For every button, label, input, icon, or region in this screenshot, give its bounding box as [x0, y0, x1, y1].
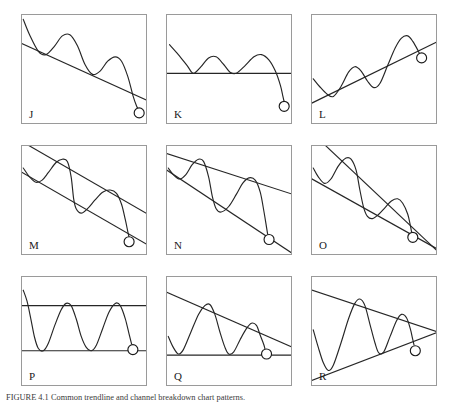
breakdown-marker-circle	[408, 232, 418, 242]
panel-label-p: P	[29, 371, 35, 382]
panel-r-plot	[312, 277, 437, 386]
breakdown-marker-circle	[279, 101, 289, 111]
pattern-figure-grid: JKLMNOPQR	[0, 0, 454, 402]
price-curve	[313, 36, 420, 97]
panel-q: Q	[166, 276, 292, 386]
panel-k-plot	[167, 15, 292, 124]
panel-label-m: M	[29, 240, 39, 251]
panel-r: R	[311, 276, 437, 386]
breakdown-marker-circle	[417, 53, 427, 63]
panel-q-plot	[167, 277, 292, 386]
panel-n: N	[166, 145, 292, 255]
panel-o-plot	[312, 146, 437, 255]
breakdown-marker-circle	[128, 345, 138, 355]
price-curve	[23, 290, 131, 351]
price-curve	[313, 157, 411, 231]
panel-j-plot	[22, 15, 147, 124]
panel-l-plot	[312, 15, 437, 124]
panel-n-plot	[167, 146, 292, 255]
trendline-support-2	[312, 171, 437, 255]
panel-label-n: N	[174, 240, 182, 251]
breakdown-marker-circle	[124, 237, 134, 247]
panel-label-j: J	[29, 109, 34, 120]
panel-label-q: Q	[174, 371, 182, 382]
breakdown-marker-circle	[262, 349, 272, 359]
panel-m-plot	[22, 146, 147, 255]
trendline-resistance-1	[22, 37, 147, 107]
price-curve	[313, 299, 414, 371]
panel-label-k: K	[174, 109, 182, 120]
panel-k: K	[166, 14, 292, 124]
panel-o: O	[311, 145, 437, 255]
panel-label-l: L	[319, 109, 326, 120]
trendline-support-2	[312, 327, 437, 386]
panel-p-plot	[22, 277, 147, 386]
figure-caption: FIGURE 4.1 Common trendline and channel …	[6, 393, 452, 402]
trendline-support-1	[312, 35, 437, 110]
price-curve	[23, 19, 139, 110]
panel-j: J	[21, 14, 147, 124]
panel-label-r: R	[319, 371, 327, 382]
breakdown-marker-circle	[410, 346, 420, 356]
panel-label-o: O	[319, 240, 327, 251]
panel-m: M	[21, 145, 147, 255]
panel-p: P	[21, 276, 147, 386]
breakdown-marker-circle	[134, 108, 144, 118]
trendline-resistance-1	[312, 286, 437, 337]
breakdown-marker-circle	[264, 235, 274, 245]
panel-l: L	[311, 14, 437, 124]
